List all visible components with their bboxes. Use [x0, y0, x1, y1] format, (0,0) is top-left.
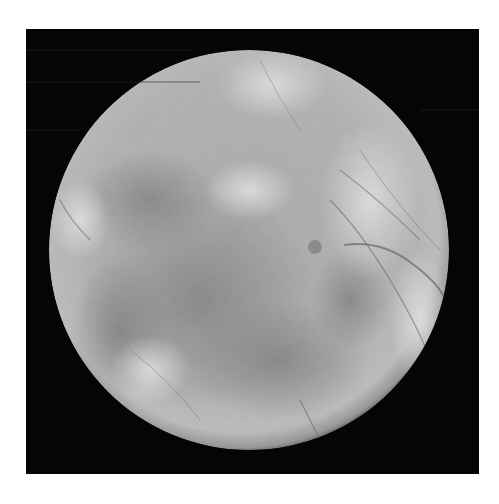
moon-disk	[45, 50, 455, 450]
moon-photo	[0, 0, 499, 504]
surface-texture	[45, 50, 455, 450]
